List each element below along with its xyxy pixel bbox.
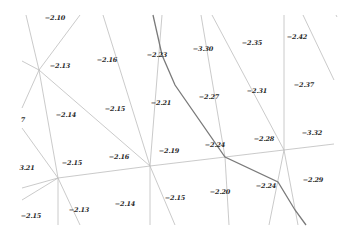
mesh-edge bbox=[336, 15, 337, 17]
mesh-edge bbox=[22, 178, 58, 200]
value-label: −2.31 bbox=[247, 87, 267, 95]
mesh-edge bbox=[39, 70, 58, 178]
value-label: −2.24 bbox=[205, 141, 225, 149]
mesh-edge bbox=[58, 166, 150, 178]
value-label: −2.16 bbox=[109, 153, 129, 161]
value-label: −2.10 bbox=[45, 14, 65, 22]
mesh-edge bbox=[103, 15, 150, 166]
value-label: −2.13 bbox=[69, 206, 89, 214]
value-label: −2.37 bbox=[294, 81, 314, 89]
mesh-edge bbox=[58, 178, 80, 225]
mesh-edge bbox=[150, 15, 162, 166]
value-label: −2.27 bbox=[199, 93, 219, 101]
value-label: 7 bbox=[21, 116, 25, 124]
value-label: −3.30 bbox=[193, 45, 213, 53]
value-label: −2.29 bbox=[303, 176, 323, 184]
mesh-edge bbox=[22, 178, 58, 188]
value-label: −2.14 bbox=[115, 200, 135, 208]
mesh-edge bbox=[284, 150, 298, 225]
value-label: −2.16 bbox=[97, 56, 117, 64]
value-label: −2.28 bbox=[254, 135, 274, 143]
value-label: −2.21 bbox=[151, 99, 171, 107]
value-label: −2.35 bbox=[242, 39, 262, 47]
mesh-edge bbox=[212, 15, 284, 150]
value-label: −2.15 bbox=[105, 105, 125, 113]
value-label: −2.42 bbox=[287, 33, 307, 41]
value-label: −2.24 bbox=[256, 182, 276, 190]
mesh-edge bbox=[22, 61, 39, 70]
value-label: −2.15 bbox=[62, 159, 82, 167]
value-label: −3.32 bbox=[302, 129, 322, 137]
value-label: −2.19 bbox=[159, 147, 179, 155]
mesh-edge bbox=[26, 15, 39, 70]
mesh-edge bbox=[22, 70, 39, 108]
value-label: −2.20 bbox=[210, 188, 230, 196]
mesh-edge bbox=[303, 15, 334, 80]
value-label: −2.15 bbox=[165, 194, 185, 202]
value-label: −2.13 bbox=[50, 62, 70, 70]
value-label: −2.14 bbox=[56, 111, 76, 119]
mesh-edge bbox=[201, 15, 225, 157]
value-label: −2.15 bbox=[21, 212, 41, 220]
value-label: 3.21 bbox=[19, 164, 34, 172]
value-label: −2.23 bbox=[147, 51, 167, 59]
